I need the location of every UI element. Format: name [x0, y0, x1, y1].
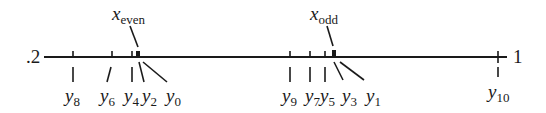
label-x-even: xeven — [111, 3, 145, 27]
leader-x-odd — [327, 26, 333, 46]
leaders-below — [73, 62, 498, 82]
label-y6: y6 — [98, 85, 115, 109]
leader-y0 — [143, 62, 167, 82]
number-line-diagram: .2 1 xeven xodd y8 — [0, 0, 546, 113]
label-y8: y8 — [63, 85, 80, 109]
label-x-odd: xodd — [309, 3, 338, 27]
tick-odd-cluster — [332, 50, 336, 57]
leader-y3 — [334, 62, 343, 80]
iterate-labels: y8 y6 y4 y2 y0 y9 y7 y5 y3 y1 y10 — [63, 81, 509, 109]
leader-y6 — [107, 67, 111, 82]
label-y3: y3 — [340, 85, 357, 109]
leader-x-even — [130, 26, 138, 47]
leaders-above — [130, 26, 333, 47]
leader-y2 — [139, 62, 144, 82]
leader-y1 — [340, 62, 364, 80]
tick-even-cluster — [136, 51, 140, 57]
label-y5: y5 — [318, 85, 335, 109]
label-y9: y9 — [280, 85, 297, 109]
label-y2: y2 — [140, 85, 157, 109]
axis-right-label: 1 — [513, 46, 523, 67]
label-y10: y10 — [486, 81, 509, 105]
axis-left-label: .2 — [26, 46, 40, 67]
label-y0: y0 — [164, 85, 181, 109]
label-y4: y4 — [122, 85, 139, 109]
label-y1: y1 — [364, 85, 381, 109]
label-y7: y7 — [303, 85, 320, 109]
